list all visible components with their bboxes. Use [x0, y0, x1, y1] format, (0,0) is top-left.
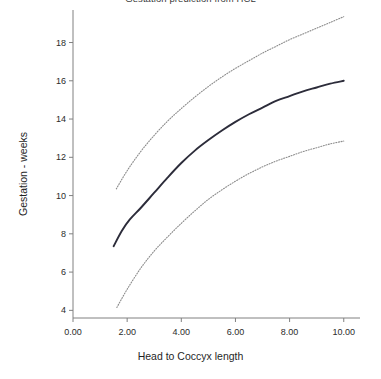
axis-spines: [73, 10, 360, 318]
y-axis-tick-label: 18: [44, 38, 66, 48]
y-axis-tick-label: 4: [44, 305, 66, 315]
y-axis-tick-label: 8: [44, 229, 66, 239]
data-series-group: [114, 17, 344, 308]
y-axis-tick-label: 16: [44, 76, 66, 86]
x-axis-label: Head to Coccyx length: [0, 350, 381, 362]
series-line-0: [116, 17, 343, 189]
y-axis-tick-label: 6: [44, 267, 66, 277]
x-axis-tick-label: 8.00: [281, 327, 299, 337]
x-axis-ticks: [73, 318, 344, 322]
plot-canvas: [0, 0, 381, 379]
y-axis-tick-label: 14: [44, 114, 66, 124]
x-axis-tick-label: 4.00: [173, 327, 191, 337]
y-axis-tick-label: 12: [44, 152, 66, 162]
x-axis-tick-label: 0.00: [64, 327, 82, 337]
y-axis-ticks: [69, 43, 73, 311]
chart-figure: Gestation prediction from HCL 4681012141…: [0, 0, 381, 379]
x-axis-tick-label: 2.00: [118, 327, 136, 337]
y-axis-label: Gestation - weeks: [17, 104, 29, 244]
y-axis-tick-label: 10: [44, 191, 66, 201]
x-axis-tick-label: 10.00: [332, 327, 355, 337]
series-line-2: [117, 141, 344, 307]
series-line-1: [114, 81, 344, 246]
x-axis-tick-label: 6.00: [227, 327, 245, 337]
